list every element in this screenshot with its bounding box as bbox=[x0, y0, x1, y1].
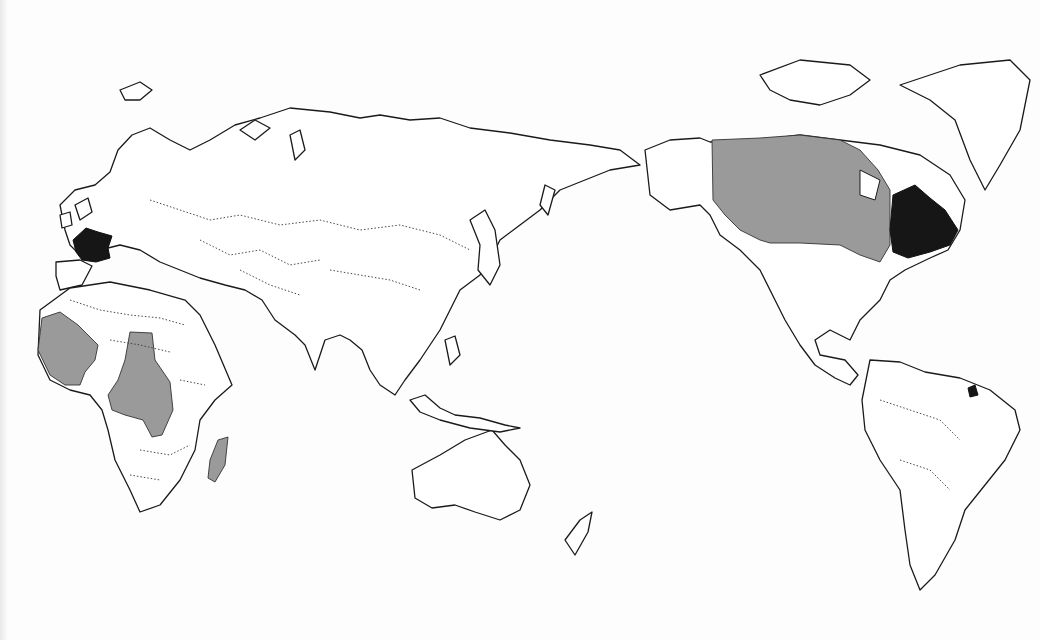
australia bbox=[412, 430, 530, 520]
region-madagascar bbox=[208, 437, 228, 482]
philippines bbox=[445, 336, 460, 365]
indonesia bbox=[410, 395, 520, 432]
world-map bbox=[0, 0, 1040, 640]
new-zealand bbox=[565, 512, 592, 555]
north-america bbox=[645, 60, 1030, 385]
south-america bbox=[862, 360, 1020, 590]
africa bbox=[38, 282, 232, 512]
